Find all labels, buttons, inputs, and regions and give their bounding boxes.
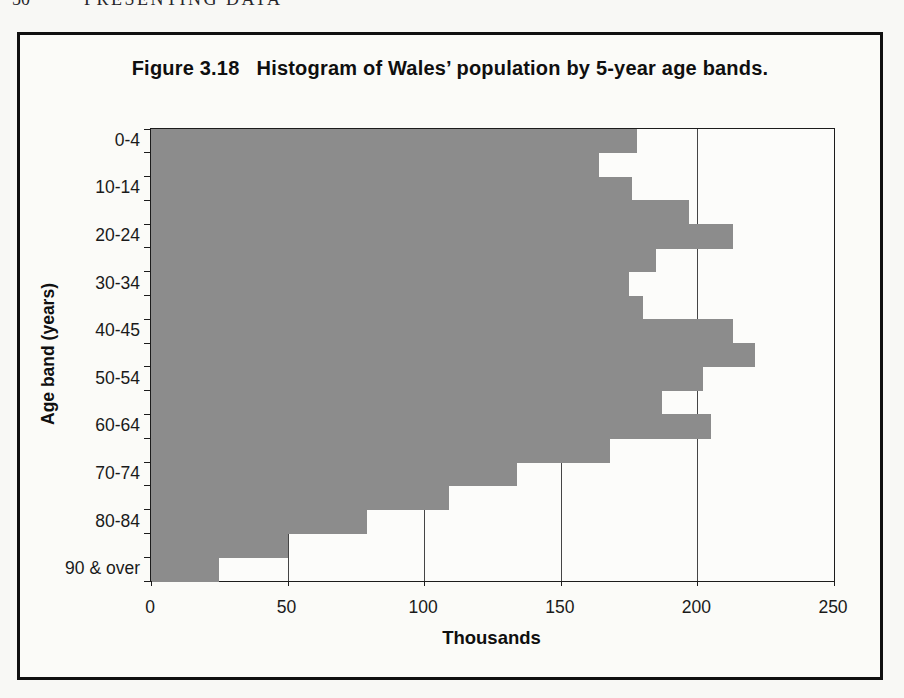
y-tick-label-50-54: 50-54 [28, 368, 140, 388]
y-axis-tick [144, 200, 151, 201]
bar-75-79 [151, 486, 449, 510]
y-tick-label-60-64: 60-64 [28, 415, 140, 435]
y-axis-tick [144, 224, 151, 225]
x-axis-tick-150 [561, 581, 562, 586]
bar-30-34 [151, 272, 629, 296]
y-tick-label-70-74: 70-74 [28, 463, 140, 483]
x-axis-tick-0 [151, 581, 152, 586]
x-tick-label-200: 200 [682, 597, 711, 618]
x-tick-label-100: 100 [409, 597, 438, 618]
bar-25-29 [151, 248, 656, 272]
y-axis-tick [144, 176, 151, 177]
x-axis-tick-50 [288, 581, 289, 586]
x-axis-tick-100 [424, 581, 425, 586]
y-axis-tick [144, 414, 151, 415]
y-axis-tick [144, 390, 151, 391]
bar-90 & over [151, 557, 219, 581]
bar-0-4 [151, 129, 637, 153]
y-tick-label-10-14: 10-14 [28, 177, 140, 197]
y-axis-tick [144, 533, 151, 534]
y-axis-tick [144, 509, 151, 510]
x-axis-tick-200 [697, 581, 698, 586]
y-axis-title: Age band (years) [38, 283, 59, 425]
y-axis-tick [144, 485, 151, 486]
plot-area [150, 128, 835, 582]
figure-title: Figure 3.18Histogram of Wales’ populatio… [20, 57, 880, 80]
x-axis-title: Thousands [150, 627, 833, 649]
bar-85-89 [151, 533, 288, 557]
bar-10-14 [151, 177, 632, 201]
y-axis-tick [144, 319, 151, 320]
bar-20-24 [151, 224, 733, 248]
page-number: 50 [12, 0, 30, 10]
bar-70-74 [151, 462, 517, 486]
y-axis-tick [144, 295, 151, 296]
y-axis-tick [144, 129, 151, 130]
bar-15-19 [151, 200, 689, 224]
y-axis-tick [144, 152, 151, 153]
y-tick-label-90 & over: 90 & over [28, 558, 140, 578]
y-axis-tick [144, 247, 151, 248]
scanned-book-page: 50 PRESENTING DATA Figure 3.18Histogram … [0, 0, 904, 698]
y-axis-tick [144, 462, 151, 463]
y-axis-tick [144, 581, 151, 582]
bar-55-59 [151, 391, 662, 415]
x-tick-label-0: 0 [145, 597, 155, 618]
y-tick-label-0-4: 0-4 [28, 130, 140, 150]
bar-65-69 [151, 438, 610, 462]
y-axis-tick [144, 271, 151, 272]
y-axis-tick [144, 343, 151, 344]
figure-number: Figure 3.18 [132, 57, 240, 79]
figure-frame: Figure 3.18Histogram of Wales’ populatio… [17, 32, 883, 680]
x-axis-tick-250 [834, 581, 835, 586]
y-tick-label-80-84: 80-84 [28, 511, 140, 531]
x-tick-label-150: 150 [545, 597, 574, 618]
y-axis-tick [144, 366, 151, 367]
figure-caption: Histogram of Wales’ population by 5-year… [257, 57, 769, 79]
bar-45-49 [151, 343, 755, 367]
bar-80-84 [151, 510, 367, 534]
y-tick-label-40-45: 40-45 [28, 320, 140, 340]
bar-60-64 [151, 414, 711, 438]
y-tick-label-20-24: 20-24 [28, 225, 140, 245]
running-title: PRESENTING DATA [84, 0, 283, 10]
y-tick-label-30-34: 30-34 [28, 273, 140, 293]
bar-50-54 [151, 367, 703, 391]
y-axis-tick [144, 438, 151, 439]
x-tick-label-50: 50 [277, 597, 296, 618]
bar-5-9 [151, 153, 599, 177]
x-tick-label-250: 250 [818, 597, 847, 618]
y-axis-tick [144, 557, 151, 558]
bar-40-44 [151, 319, 733, 343]
bar-35-39 [151, 296, 643, 320]
